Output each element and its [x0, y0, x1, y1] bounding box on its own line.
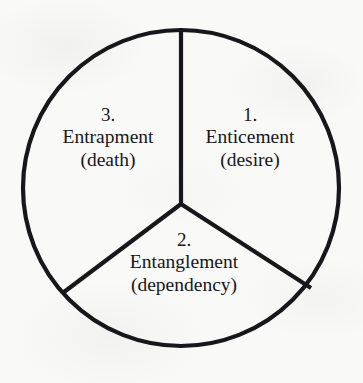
wedge-number-enticement: 1. — [188, 104, 312, 126]
wedge-name-entrapment: Entrapment — [46, 126, 170, 149]
wedge-number-entanglement: 2. — [110, 229, 258, 251]
wedge-name-enticement: Enticement — [188, 126, 312, 149]
wedge-label-entrapment: 3. Entrapment (death) — [46, 104, 170, 172]
wedge-label-enticement: 1. Enticement (desire) — [188, 104, 312, 172]
wheel-diagram-svg — [0, 0, 363, 383]
wedge-qualifier-entrapment: (death) — [46, 149, 170, 172]
wedge-qualifier-enticement: (desire) — [188, 149, 312, 172]
wedge-label-entanglement: 2. Entanglement (dependency) — [110, 229, 258, 297]
wedge-name-entanglement: Entanglement — [110, 251, 258, 274]
three-stage-cycle-diagram: 1. Enticement (desire) 3. Entrapment (de… — [0, 0, 363, 383]
wedge-number-entrapment: 3. — [46, 104, 170, 126]
wedge-qualifier-entanglement: (dependency) — [110, 274, 258, 297]
